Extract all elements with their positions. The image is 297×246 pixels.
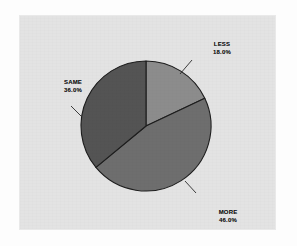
pie-label-more: MORE 46.0%	[208, 209, 248, 224]
pie-label-less-name: LESS	[202, 41, 242, 49]
pie-label-more-value: 46.0%	[208, 217, 248, 225]
pie-label-more-name: MORE	[208, 209, 248, 217]
leader-line-less	[180, 60, 192, 74]
pie-label-less-value: 18.0%	[202, 49, 242, 57]
screenshot-root: LESS 18.0% SAME 36.0% MORE 46.0%	[0, 0, 297, 246]
pie-chart-panel: LESS 18.0% SAME 36.0% MORE 46.0%	[20, 16, 275, 229]
pie-label-same-value: 36.0%	[53, 87, 93, 95]
leader-line-more	[185, 181, 196, 193]
pie-slices	[81, 61, 211, 191]
pie-label-same: SAME 36.0%	[53, 79, 93, 94]
leader-line-same	[71, 106, 82, 117]
pie-label-same-name: SAME	[53, 79, 93, 87]
pie-label-less: LESS 18.0%	[202, 41, 242, 56]
